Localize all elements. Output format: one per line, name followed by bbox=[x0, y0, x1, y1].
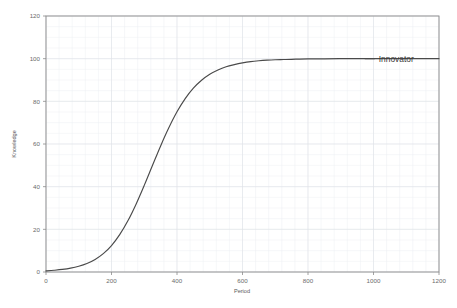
y-tick-label: 0 bbox=[37, 268, 41, 275]
y-tick-label: 60 bbox=[33, 140, 40, 147]
legend-label-innovator: Innovator bbox=[379, 54, 414, 64]
x-tick-label: 600 bbox=[237, 277, 248, 284]
y-tick-label: 80 bbox=[33, 98, 40, 105]
x-tick-label: 800 bbox=[303, 277, 314, 284]
x-tick-label: 1200 bbox=[432, 277, 446, 284]
y-tick-label: 100 bbox=[30, 55, 41, 62]
chart-container: 020040060080010001200 020406080100120 In… bbox=[0, 0, 457, 308]
y-tick-label: 120 bbox=[30, 12, 41, 19]
chart-background bbox=[0, 0, 457, 308]
y-tick-label: 20 bbox=[33, 226, 40, 233]
x-tick-label: 0 bbox=[44, 277, 48, 284]
x-axis-title: Period bbox=[234, 288, 250, 294]
line-chart: 020040060080010001200 020406080100120 In… bbox=[0, 0, 457, 308]
x-tick-label: 400 bbox=[172, 277, 183, 284]
x-tick-label: 1000 bbox=[367, 277, 381, 284]
x-tick-label: 200 bbox=[106, 277, 117, 284]
y-axis-title: Knowledge bbox=[11, 130, 17, 158]
y-tick-label: 40 bbox=[33, 183, 40, 190]
